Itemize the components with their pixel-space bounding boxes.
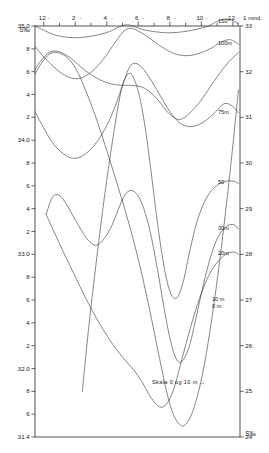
y-axis-right-title: S‰ xyxy=(245,430,256,437)
y-left-tick-label: 6 xyxy=(26,410,30,417)
x-tick-label: 6 xyxy=(135,14,139,21)
y-left-tick-label: 4 xyxy=(26,205,30,212)
x-tick-label: 8 xyxy=(167,14,171,21)
curve-label-100-m: 100m xyxy=(218,40,232,46)
y-left-tick-label: 6 xyxy=(26,296,30,303)
y-right-tick-label: 28 xyxy=(245,250,252,257)
chart-canvas: 12·2·4·6·8·10·12·1 mnd. 35.0864234.08642… xyxy=(0,0,269,453)
curve-label-30-m: 30m xyxy=(218,225,229,231)
y-left-tick-label: 34.0 xyxy=(18,136,31,143)
x-tick-label: 10 xyxy=(196,14,203,21)
y-right-tick-label: 32 xyxy=(245,68,252,75)
y-axis-left-title: S‰ xyxy=(19,26,30,33)
curve-label-50: 50 xyxy=(218,179,224,185)
y-left-tick-label: 8 xyxy=(26,159,30,166)
svg-text:·: · xyxy=(237,14,239,21)
svg-text:·: · xyxy=(174,14,176,21)
y-right-tick-label: 25 xyxy=(245,387,252,394)
x-axis-end-label: 1 mnd. xyxy=(243,14,262,21)
y-left-tick-label: 4 xyxy=(26,91,30,98)
y-right-tick-label: 30 xyxy=(245,159,252,166)
svg-text:·: · xyxy=(79,14,81,21)
y-left-tick-label: 2 xyxy=(26,113,30,120)
y-left-tick-label: 8 xyxy=(26,45,30,52)
y-right-tick-label: 27 xyxy=(245,296,252,303)
y-right-tick-label: 31 xyxy=(245,113,252,120)
scale-annotation-text: Skala 0 og 10 m → xyxy=(152,379,206,385)
svg-text:·: · xyxy=(142,14,144,21)
scale-annotation: Skala 0 og 10 m → xyxy=(152,379,206,385)
x-tick-label: 12 xyxy=(39,14,46,21)
salinity-time-series-chart: 12·2·4·6·8·10·12·1 mnd. 35.0864234.08642… xyxy=(0,0,269,453)
y-left-tick-label: 32.0 xyxy=(18,365,31,372)
y-left-tick-label: 6 xyxy=(26,68,30,75)
curve-label-150-m: 150ᵐ xyxy=(218,18,231,24)
curve-label-75-m: 75m xyxy=(218,109,229,115)
y-left-tick-label: 2 xyxy=(26,342,30,349)
y-left-tick-label: 6 xyxy=(26,182,30,189)
y-left-tick-label: 31.4 xyxy=(18,433,31,440)
x-tick-label: 2 xyxy=(72,14,76,21)
curve-label-20-m: 20m xyxy=(218,250,229,256)
y-right-tick-label: 26 xyxy=(245,342,252,349)
y-left-tick-label: 2 xyxy=(26,228,30,235)
y-left-tick-label: 8 xyxy=(26,273,30,280)
y-left-tick-label: 4 xyxy=(26,319,30,326)
svg-text:·: · xyxy=(111,14,113,21)
y-right-tick-label: 33 xyxy=(245,22,252,29)
y-right-tick-label: 29 xyxy=(245,205,252,212)
svg-text:·: · xyxy=(48,14,50,21)
x-tick-label: 4 xyxy=(104,14,108,21)
curve-label-0-m: 0 m xyxy=(212,303,222,309)
y-left-tick-label: 8 xyxy=(26,387,30,394)
curve-label-10-m: 10 m xyxy=(212,296,225,302)
svg-text:·: · xyxy=(206,14,208,21)
y-left-tick-label: 33.0 xyxy=(18,250,31,257)
